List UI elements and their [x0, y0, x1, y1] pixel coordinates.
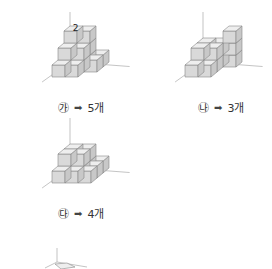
cube-top-face: [55, 263, 75, 269]
axis-left: [45, 262, 57, 268]
block-stack-partial: [0, 0, 272, 269]
